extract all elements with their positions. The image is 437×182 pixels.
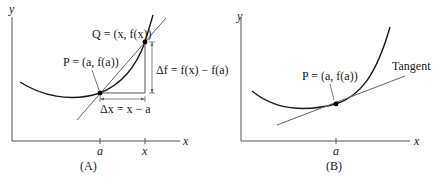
panel-a-delta-f-label: Δf = f(x) − f(a) [156,63,229,77]
panel-b-x-axis-label: x [413,134,420,148]
panel-a-delta-x-arrowhead-right [141,98,145,101]
panel-a-tick-label-x: x [141,144,148,158]
panel-b-point-p-leader [330,84,334,100]
panel-b: y x a Tangent P = (a, f(a)) (B) [236,9,431,173]
panel-a-delta-x-arrowhead-left [100,98,104,101]
panel-b-point-p [334,102,339,107]
panel-a-point-q-label: Q = (x, f(x)) [92,27,151,41]
secant-tangent-figure: y x a x Δx = x − a Δf = f(x) − f(a) Q = … [0,0,437,182]
panel-b-tangent-line [277,76,405,125]
panel-a-caption: (A) [80,159,97,173]
panel-a-point-p-leader [92,70,99,90]
panel-b-caption: (B) [326,159,342,173]
panel-a-point-p-label: P = (a, f(a)) [63,55,119,69]
panel-b-function-curve [252,27,390,108]
panel-b-y-axis-label: y [236,9,243,23]
panel-a-delta-f-arrowhead-bottom [151,89,154,93]
panel-a: y x a x Δx = x − a Δf = f(x) − f(a) Q = … [8,2,229,173]
panel-a-delta-x-label: Δx = x − a [100,102,151,116]
panel-a-y-axis-label: y [8,2,15,16]
panel-a-point-p [98,91,103,96]
panel-a-x-axis-label: x [182,134,189,148]
panel-a-delta-f-arrowhead-top [151,42,154,46]
panel-b-tick-label-a: a [333,144,339,158]
panel-b-tangent-label: Tangent [392,59,431,73]
panel-a-tick-label-a: a [97,144,103,158]
panel-b-point-p-label: P = (a, f(a)) [302,69,358,83]
